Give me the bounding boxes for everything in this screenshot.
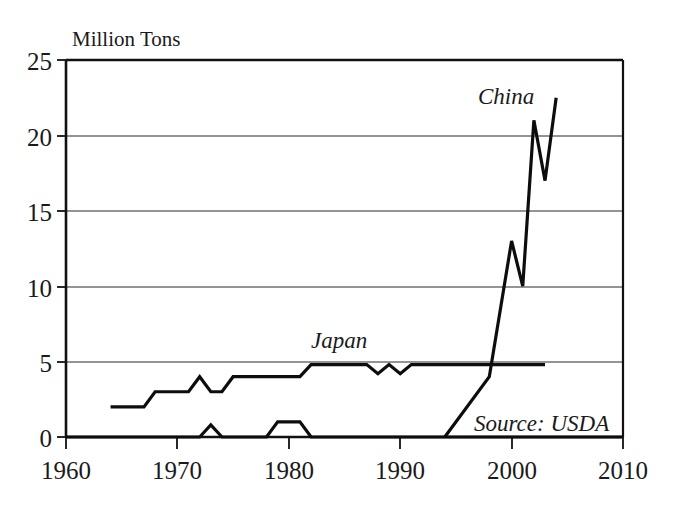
y-tick-label-5: 5 [40,350,53,377]
x-tick-label-2010: 2010 [598,457,648,484]
x-tick-label-1960: 1960 [41,457,91,484]
source-annotation: Source: USDA [474,411,610,436]
y-tick-label-15: 15 [27,199,52,226]
y-tick-label-20: 20 [27,124,52,151]
y-tick-label-10: 10 [27,275,52,302]
chart-page: Million Tons 25 20 15 10 5 0 1960 1970 1… [0,0,675,505]
x-tick-labels: 1960 1970 1980 1990 2000 2010 [41,457,648,484]
y-tick-label-25: 25 [27,48,52,75]
plot-frame [66,60,623,437]
series-line-china [445,98,556,437]
series-label-china: China [478,84,534,109]
series-label-japan: Japan [311,328,367,353]
x-tick-label-1980: 1980 [264,457,314,484]
x-tick-label-1970: 1970 [152,457,202,484]
series-line-japan [111,365,545,407]
x-tick-label-1990: 1990 [375,457,425,484]
x-tick-marks [66,437,623,449]
y-tick-label-0: 0 [40,425,53,452]
series-group [66,98,623,437]
y-tick-marks [57,60,66,437]
line-chart: Million Tons 25 20 15 10 5 0 1960 1970 1… [0,0,675,505]
y-tick-labels: 25 20 15 10 5 0 [27,48,52,452]
x-tick-label-2000: 2000 [487,457,537,484]
y-axis-title: Million Tons [72,27,180,51]
